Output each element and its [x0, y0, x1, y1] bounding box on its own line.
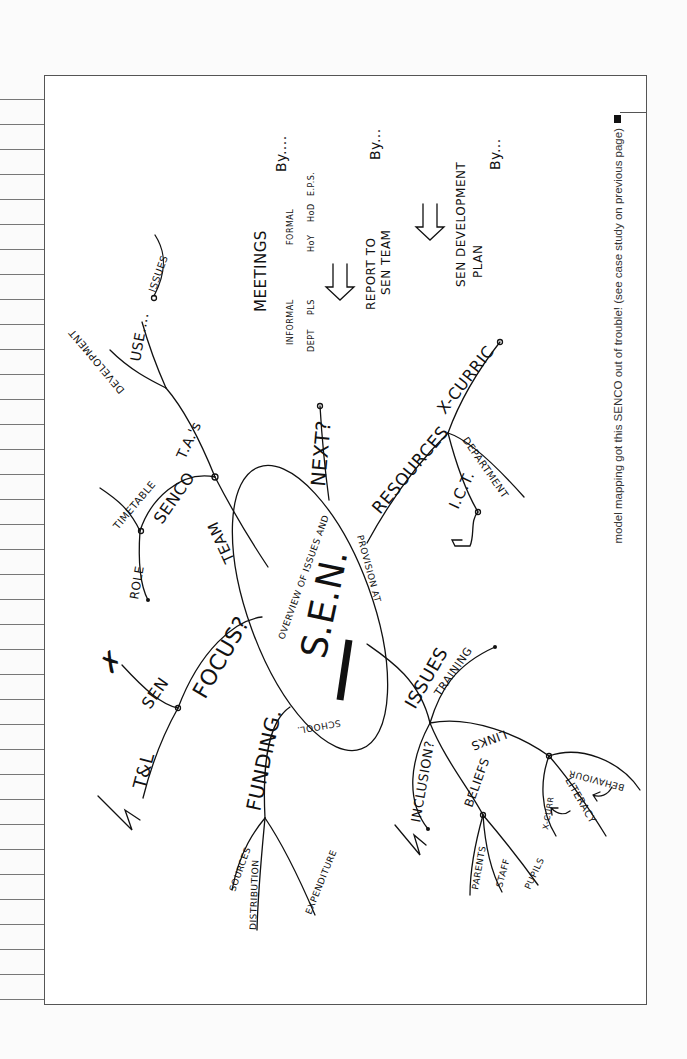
by-label-2: By... [367, 128, 383, 160]
distribution-label: DISTRIBUTION [248, 859, 260, 930]
links-label: LINKS [469, 727, 509, 753]
meetings-label: MEETINGS [252, 230, 270, 312]
cross-mark-icon: ✗ [93, 643, 130, 680]
resources-label: RESOURCES [368, 422, 453, 518]
by-label-3: By... [487, 138, 503, 170]
focus-child-tl: T&L [128, 750, 158, 792]
sen-dev-plan-label: SEN DEVELOPMENT [454, 162, 468, 287]
issues-ta-label: ISSUES [147, 254, 171, 294]
beliefs-label: BELIEFS [462, 756, 493, 809]
senco-label: SENCO [150, 468, 199, 527]
role-label: ROLE [127, 565, 147, 601]
hoy-label: HoY [307, 235, 316, 252]
ict-scribble [452, 512, 478, 546]
eps-label: E.P.S. [307, 172, 316, 196]
redaction-bar [340, 640, 349, 700]
by-label-1: By.... [273, 135, 289, 172]
next-label: NEXT? [306, 419, 336, 487]
mind-map: S.E.N. OVERVIEW OF ISSUES AND PROVISION … [0, 0, 687, 1059]
funding-label: FUNDING. [241, 707, 286, 813]
use-label: USE.... [127, 311, 151, 362]
arrow-down-icon [416, 204, 444, 240]
check-mark-inclusion-icon [395, 825, 426, 855]
timetable-label: TIMETABLE [110, 479, 157, 532]
report-to-label: REPORT TO [364, 238, 378, 311]
tas-label: T.A.'s [173, 419, 205, 462]
focus-child-sen: SEN [138, 674, 173, 713]
dept-label: DEPT [307, 329, 316, 352]
sen-team-label: SEN TEAM [379, 230, 393, 295]
hod-label: HoD [307, 203, 316, 222]
development-label: DEVELOPMENT [66, 327, 126, 396]
ict-label: I.C.T. [445, 468, 478, 511]
pupils-label: PUPILS [523, 856, 546, 891]
arrow-icon [551, 808, 570, 815]
xcurric-label: X-CURRIC [433, 342, 498, 417]
team-label: TEAM [204, 519, 239, 567]
plan-label: PLAN [471, 245, 485, 278]
informal-label: INFORMAL [286, 299, 295, 345]
expenditure-label: EXPENDITURE [304, 848, 339, 916]
focus-label: FOCUS? [188, 612, 255, 703]
staff-label: STAFF [494, 857, 511, 888]
check-mark-tl-icon [98, 796, 140, 830]
arrow-down-icon [326, 264, 354, 300]
pls-label: PLS [307, 299, 316, 315]
formal-label: FORMAL [286, 209, 295, 245]
center-ring-text-2: PROVISION AT [355, 534, 383, 604]
parents-label: PARENTS [470, 845, 488, 890]
